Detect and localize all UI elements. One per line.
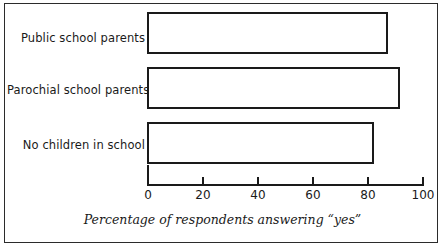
axis-tick-0 bbox=[147, 177, 149, 185]
axis-tick-label-20: 20 bbox=[195, 188, 210, 202]
axis-tick-20 bbox=[202, 177, 204, 185]
axis-tick-label-40: 40 bbox=[250, 188, 265, 202]
axis-tick-60 bbox=[312, 177, 314, 185]
bar-chart-figure: Public school parents Parochial school p… bbox=[0, 0, 445, 247]
axis-tick-80 bbox=[367, 177, 369, 185]
axis-tick-100 bbox=[422, 177, 424, 185]
plot-area: 0 20 40 60 80 100 bbox=[147, 0, 427, 247]
value-axis-title: Percentage of respondents answering “yes… bbox=[0, 212, 445, 227]
axis-tick-40 bbox=[257, 177, 259, 185]
bar-public-school-parents bbox=[147, 12, 388, 54]
category-label-no-children-in-school: No children in school bbox=[7, 138, 145, 152]
axis-tick-label-60: 60 bbox=[305, 188, 320, 202]
axis-tick-label-0: 0 bbox=[144, 188, 152, 202]
bar-parochial-school-parents bbox=[147, 67, 400, 109]
axis-tick-label-100: 100 bbox=[412, 188, 435, 202]
category-axis-labels: Public school parents Parochial school p… bbox=[0, 0, 145, 247]
bar-no-children-in-school bbox=[147, 122, 374, 164]
category-label-parochial-school-parents: Parochial school parents bbox=[7, 83, 145, 97]
axis-tick-label-80: 80 bbox=[360, 188, 375, 202]
value-axis-line bbox=[147, 184, 424, 186]
category-label-public-school-parents: Public school parents bbox=[7, 31, 145, 45]
